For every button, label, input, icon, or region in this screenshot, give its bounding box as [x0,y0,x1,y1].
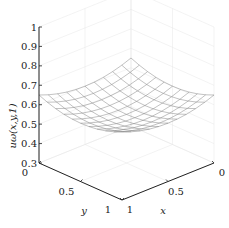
mesh-line [48,95,131,132]
x-tick-label: 0.5 [168,186,184,197]
back-wall-grid [39,0,214,200]
y-tick-label: 0 [22,167,28,178]
x-tick-label: 1 [127,204,133,215]
mesh-line [122,95,214,132]
z-tick-label: 1 [31,22,37,33]
surface-mesh [39,58,214,132]
axes: 0.30.40.50.60.70.80.9100.5100.51 [21,22,225,216]
mesh-line [94,82,177,119]
z-tick-label: 0.7 [21,80,37,91]
z-tick-label: 0.8 [21,60,37,71]
z-tick-label: 0.4 [21,138,37,149]
mesh-line [122,65,205,102]
surface-plot: 0.30.40.50.60.70.80.9100.5100.51 uω(x,y,… [0,0,229,228]
mesh-line [47,65,139,102]
y-tick-label: 0.5 [59,186,75,197]
y-axis-label: y [80,205,87,216]
x-tick-label: 0 [219,167,225,178]
z-tick-label: 0.9 [21,41,37,52]
z-tick-label: 0.5 [21,119,37,130]
z-tick-label: 0.6 [21,99,37,110]
x-axis-label: x [160,205,166,216]
grid-line [81,145,173,182]
z-axis-label: uω(x,y,1) [7,103,18,148]
mesh-line [105,94,197,131]
y-tick-label: 1 [105,204,111,215]
